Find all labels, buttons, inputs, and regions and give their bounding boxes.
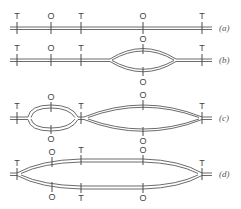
svg-text:T: T [14,158,20,168]
svg-text:O: O [139,34,146,44]
row-label-d: (d) [219,169,230,179]
marker-O-bottom: O [139,67,146,87]
svg-text:O: O [139,193,146,203]
marker-O: O [47,43,54,66]
marker-T: T [14,11,20,34]
marker-T: T [78,43,84,66]
svg-text:O: O [47,43,54,53]
svg-text:O: O [47,11,54,21]
svg-text:T: T [14,101,20,111]
row-c: T O O T O O T (c) [10,90,229,146]
svg-text:T: T [199,101,205,111]
marker-T: T [199,11,205,34]
row-d: T O T O O T O T (d) [10,145,230,203]
svg-text:O: O [48,147,55,157]
svg-text:T: T [78,101,84,111]
marker-T: T [78,11,84,34]
row-label-b: (b) [219,55,230,65]
svg-text:O: O [139,77,146,87]
marker-O-bottom: O [139,127,146,146]
svg-text:T: T [199,43,205,53]
svg-text:T: T [78,193,84,203]
svg-text:T: T [78,145,84,155]
svg-text:O: O [47,92,54,102]
svg-text:O: O [48,192,55,202]
svg-text:O: O [139,11,146,21]
row-label-c: (c) [219,113,229,123]
svg-text:T: T [14,43,20,53]
row-a: T O T O T (a) [10,11,230,34]
svg-text:T: T [199,11,205,21]
marker-T: T [14,101,20,124]
svg-text:T: T [199,158,205,168]
svg-text:T: T [14,11,20,21]
marker-O: O [47,11,54,34]
svg-text:T: T [78,43,84,53]
replication-diagram: T O T O T (a) T [0,0,241,209]
svg-text:T: T [78,11,84,21]
row-b: T O T O O T (b) [10,34,230,87]
svg-text:O: O [47,134,54,144]
svg-text:O: O [139,145,146,155]
marker-O-top: O [47,92,54,112]
marker-T: T [14,43,20,66]
marker-T: T [199,43,205,66]
marker-O-bottom: O [48,182,55,202]
marker-O: O [139,11,146,34]
marker-T: T [78,101,84,124]
row-label-a: (a) [219,23,230,33]
svg-text:O: O [139,90,146,100]
